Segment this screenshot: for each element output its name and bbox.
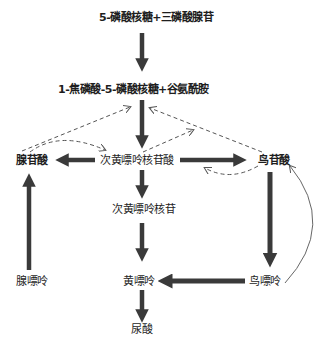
node-amp: 腺苷酸 <box>16 154 48 167</box>
edge-amp-to-imp-dashed-curve <box>30 140 105 152</box>
edge-imp-to-prpp-dashed <box>143 130 193 152</box>
node-uric-acid: 尿酸 <box>131 323 152 336</box>
node-guanine: 鸟嘌呤 <box>249 275 281 288</box>
diagram-canvas <box>0 0 325 347</box>
edge-guanine-to-gmp-curve <box>285 166 313 283</box>
node-prpp-glutamine: 1-焦磷酸-5-磷酸核糖+谷氨酰胺 <box>58 83 209 96</box>
node-inosine: 次黄嘌呤核苷 <box>112 203 175 216</box>
node-xanthine: 黄嘌呤 <box>123 275 155 288</box>
edge-gmp-to-prpp-dashed <box>150 108 262 152</box>
node-adenine: 腺嘌呤 <box>16 275 48 288</box>
node-imp: 次黄嘌呤核苷酸 <box>100 154 174 167</box>
node-gmp: 鸟苷酸 <box>258 154 290 167</box>
edge-gmp-to-imp-dashed-curve <box>205 166 258 175</box>
edge-amp-to-prpp-dashed <box>22 107 130 151</box>
node-ribose-5-phosphate-atp: 5-磷酸核糖+三磷酸腺苷 <box>99 11 213 24</box>
